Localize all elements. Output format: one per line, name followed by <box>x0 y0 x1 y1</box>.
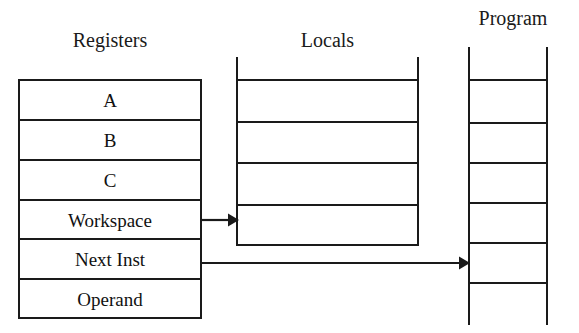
register-row-c: C <box>19 160 201 200</box>
register-row-next-inst: Next Inst <box>19 239 201 279</box>
locals-ladder <box>237 57 418 246</box>
arrow-next-inst-to-program <box>201 257 470 270</box>
arrows <box>201 214 470 270</box>
register-row-a: A <box>19 80 201 120</box>
program-ladder <box>469 47 547 325</box>
register-row-workspace: Workspace <box>19 200 201 240</box>
register-memory-diagram: Registers Locals Program <box>0 0 579 333</box>
register-row-b: B <box>19 120 201 160</box>
arrow-workspace-to-locals <box>201 214 239 227</box>
register-row-operand: Operand <box>19 279 201 319</box>
